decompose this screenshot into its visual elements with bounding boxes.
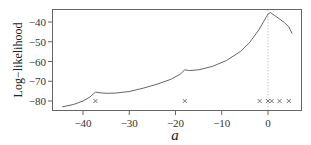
y-axis: −40−50−60−70−80 [29,16,53,107]
x-tick-label: −30 [121,117,139,129]
x-marker-icon [183,99,187,103]
y-tick-label: −40 [29,16,47,28]
x-tick-label: 0 [265,117,271,129]
x-marker-icon [266,99,270,103]
y-tick-label: −60 [29,56,47,68]
x-tick-label: −40 [74,117,92,129]
x-marker-icon [93,99,97,103]
y-axis-title: Log−likelihood [11,23,25,98]
x-marker-icon [287,99,291,103]
x-marker-icon [278,99,282,103]
y-tick-label: −70 [29,75,47,87]
likelihood-line [62,13,292,107]
y-tick-label: −80 [29,95,47,107]
y-tick-label: −50 [29,36,47,48]
x-marker-icon [270,99,274,103]
plot-frame [53,10,302,111]
x-axis-title: a [171,127,179,143]
log-likelihood-chart: −40−50−60−70−80 −40−30−20−100 Log−likeli… [0,0,311,145]
x-marker-icon [258,99,262,103]
data-point-markers [93,99,290,103]
x-tick-label: −10 [213,117,231,129]
likelihood-curve [62,13,292,107]
